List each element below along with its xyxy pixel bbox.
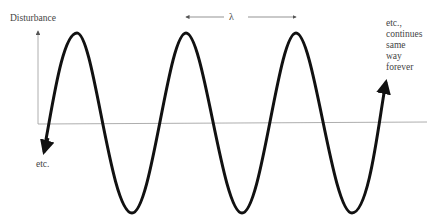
y-axis-label: Disturbance bbox=[10, 13, 56, 24]
right-etc-note: etc., continues same way forever bbox=[386, 18, 422, 73]
left-etc-note: etc. bbox=[36, 159, 49, 170]
wavelength-label: λ bbox=[229, 11, 234, 22]
x-axis bbox=[38, 122, 427, 124]
note-line: etc., bbox=[386, 18, 422, 29]
note-line: forever bbox=[386, 62, 422, 73]
note-line: continues bbox=[386, 29, 422, 40]
wave-diagram bbox=[0, 0, 442, 224]
note-line: same bbox=[386, 40, 422, 51]
note-line: way bbox=[386, 51, 422, 62]
